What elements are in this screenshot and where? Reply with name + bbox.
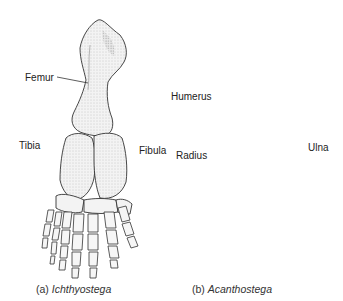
limb-diagram [0, 0, 343, 301]
caption-a-taxon: Ichthyostega [52, 283, 112, 295]
label-femur: Femur [25, 73, 54, 83]
caption-a-prefix: (a) [36, 283, 52, 295]
caption-b-prefix: (b) [192, 283, 208, 295]
fibula-bone [94, 133, 127, 198]
label-humerus: Humerus [171, 92, 212, 102]
label-tibia: Tibia [19, 141, 40, 151]
label-ulna: Ulna [308, 143, 329, 153]
label-fibula: Fibula [139, 146, 166, 156]
femur-bone [72, 20, 126, 136]
caption-b: (b) Acanthostega [192, 283, 272, 295]
ichthyostega-hindlimb [42, 20, 138, 278]
caption-b-taxon: Acanthostega [208, 283, 272, 295]
femur-leader [57, 77, 88, 83]
label-radius: Radius [176, 151, 207, 161]
caption-a: (a) Ichthyostega [36, 283, 111, 295]
tibia-bone [60, 134, 95, 201]
